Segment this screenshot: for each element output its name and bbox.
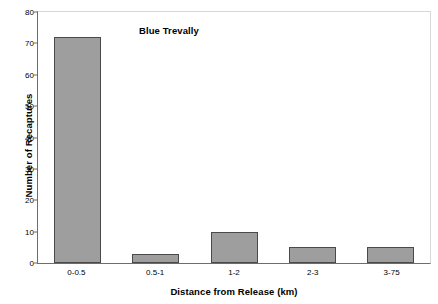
x-axis-ticks: 0-0.50.5-11-22-33-75 [37,268,431,277]
y-tick-label: 60 [8,70,34,79]
x-tick-label: 0-0.5 [37,268,116,277]
x-tick-label: 1-2 [195,268,274,277]
bar-slot [116,12,194,263]
y-tick-label: 70 [8,39,34,48]
y-tick-label: 10 [8,227,34,236]
y-tick-label: 80 [8,8,34,17]
bar-series [38,12,430,263]
x-axis-title: Distance from Release (km) [37,286,431,297]
bar-chart: Number of Recaptures Blue Trevally 01020… [0,0,438,304]
bar-slot [195,12,273,263]
y-tick-label: 30 [8,164,34,173]
bar-slot [38,12,116,263]
x-tick-label: 3-75 [352,268,431,277]
y-tick-label: 40 [8,133,34,142]
x-tick-label: 0.5-1 [116,268,195,277]
x-tick-label: 2-3 [273,268,352,277]
bar-slot [352,12,430,263]
bar [211,232,258,263]
bar [367,247,414,263]
bar-slot [273,12,351,263]
y-axis-title: Number of Recaptures [23,56,34,236]
plot-area: Blue Trevally 01020304050607080 [37,11,431,264]
y-tick-label: 20 [8,196,34,205]
y-tick-label: 0 [8,259,34,268]
bar [289,247,336,263]
bar [132,254,179,263]
bar [54,37,101,263]
y-tick-label: 50 [8,102,34,111]
